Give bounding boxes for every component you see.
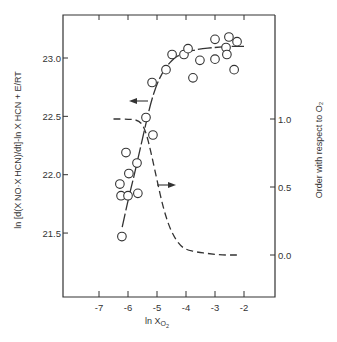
y-axis-ticks: 21.522.022.523.0 xyxy=(43,53,69,239)
data-point xyxy=(211,35,220,44)
x-tick-label: -4 xyxy=(182,302,190,313)
data-point xyxy=(118,232,127,241)
data-point xyxy=(133,159,142,168)
y2-axis-label: Order with respect to O₂ xyxy=(314,101,324,198)
left-arrow-icon xyxy=(129,98,137,104)
y-axis-label: ln [d(X NO·X HCN)/dt]-ln X HCN + E/RT xyxy=(13,71,23,229)
data-point xyxy=(225,33,234,42)
rate-fit-curve xyxy=(122,46,244,227)
order-curve xyxy=(114,119,239,255)
data-point xyxy=(168,50,177,59)
data-point xyxy=(162,65,171,74)
y-tick-label: 21.5 xyxy=(43,228,62,239)
data-points xyxy=(116,33,242,241)
data-point xyxy=(149,131,158,140)
chart-figure: -7-6-5-4-3-2 21.522.022.523.0 0.00.51.0 … xyxy=(0,0,337,342)
x-tick-label: -2 xyxy=(240,302,248,313)
x-tick-label: -3 xyxy=(211,302,219,313)
x-axis-ticks: -7-6-5-4-3-2 xyxy=(95,15,248,313)
x-tick-label: -7 xyxy=(95,302,103,313)
y2-tick-label: 1.0 xyxy=(278,114,291,125)
data-point xyxy=(230,65,239,74)
x-axis-label: ln XO2 xyxy=(145,316,169,329)
data-point xyxy=(142,113,151,122)
y2-tick-label: 0.5 xyxy=(278,182,291,193)
data-point xyxy=(184,44,193,53)
data-point xyxy=(116,180,125,189)
y-tick-label: 22.5 xyxy=(43,111,62,122)
x-tick-label: -6 xyxy=(124,302,132,313)
data-point xyxy=(233,37,242,46)
data-point xyxy=(196,56,205,65)
data-point xyxy=(124,191,133,200)
y-tick-label: 22.0 xyxy=(43,169,62,180)
plot-curves xyxy=(114,46,245,255)
data-point xyxy=(125,169,134,178)
y-tick-label: 23.0 xyxy=(43,53,62,64)
data-point xyxy=(148,78,157,87)
y2-tick-label: 0.0 xyxy=(278,250,291,261)
data-point xyxy=(223,50,232,59)
x-tick-label: -5 xyxy=(153,302,161,313)
data-point xyxy=(134,189,143,198)
right-arrow-icon xyxy=(168,182,176,188)
y2-axis-ticks: 0.00.51.0 xyxy=(270,114,291,261)
axis-indicator-arrows xyxy=(129,98,176,188)
data-point xyxy=(189,74,198,83)
data-point xyxy=(122,148,131,157)
data-point xyxy=(211,55,220,64)
